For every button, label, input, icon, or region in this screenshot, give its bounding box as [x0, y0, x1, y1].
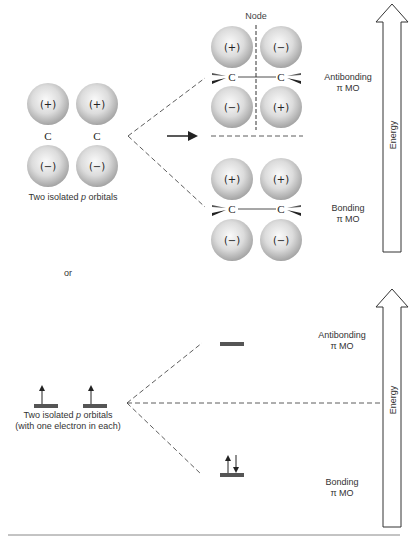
or-separator: or: [58, 268, 78, 279]
svg-text:(+): (+): [224, 42, 240, 53]
isolated-orbitals-label: Two isolated p orbitals: [10, 192, 136, 203]
antibonding-label-top: Antibonding π MO: [318, 72, 378, 94]
sign-plus: (+): [40, 99, 56, 110]
sign-minus: (−): [40, 161, 56, 172]
svg-text:(−): (−): [224, 235, 240, 246]
svg-text:(+): (+): [224, 174, 240, 185]
correlation-lines-bottom: [127, 343, 383, 475]
bonding-label-bottom: Bonding π MO: [312, 477, 372, 499]
spin-up-arrow-icon: [39, 385, 45, 391]
svg-text:(−): (−): [224, 102, 240, 113]
antibonding-label-bottom: Antibonding π MO: [312, 330, 372, 352]
sign-plus: (+): [89, 99, 105, 110]
svg-text:(+): (+): [273, 174, 289, 185]
svg-text:C: C: [228, 203, 235, 215]
spin-up-arrow-icon: [225, 455, 231, 461]
svg-text:C: C: [277, 203, 284, 215]
bonding-label-top: Bonding π MO: [318, 203, 378, 225]
carbon-atom: C: [93, 130, 100, 142]
sign-minus: (−): [89, 161, 105, 172]
antibonding-level: [220, 342, 244, 346]
bonding-level: [220, 455, 244, 477]
isolated-levels-label: Two isolated p orbitals (with one electr…: [6, 410, 130, 432]
energy-label-bottom: Energy: [388, 385, 398, 414]
svg-text:C: C: [228, 71, 235, 83]
spin-down-arrow-icon: [233, 467, 239, 473]
svg-text:C: C: [277, 71, 284, 83]
svg-text:(−): (−): [273, 235, 289, 246]
energy-label-top: Energy: [388, 120, 398, 149]
bonding-mo-orbitals: (+) (+) (−) (−) C C: [211, 158, 302, 261]
isolated-levels: [34, 385, 107, 408]
spin-up-arrow-icon: [88, 385, 94, 391]
svg-text:(−): (−): [273, 42, 289, 53]
antibonding-mo-orbitals: (+) (−) (−) (+) C C: [211, 25, 302, 130]
carbon-atom: C: [44, 130, 51, 142]
reference-arrow: [167, 131, 198, 141]
svg-text:(+): (+): [273, 102, 289, 113]
isolated-p-orbitals: (+) (+) C C (−) (−): [27, 83, 118, 187]
node-label: Node: [245, 11, 267, 21]
